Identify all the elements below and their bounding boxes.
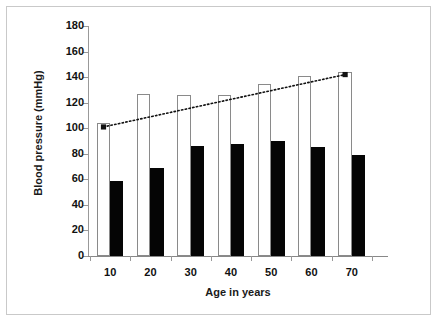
y-tick: 60 (88, 179, 89, 180)
y-tick-label: 180 (44, 19, 84, 31)
y-axis-title: Blood pressure (mmHg) (32, 33, 44, 233)
x-tick-mark (251, 256, 252, 261)
y-tick-label: 0 (44, 249, 84, 261)
x-tick-label: 10 (90, 266, 130, 278)
bar-systolic (177, 95, 190, 256)
bar-diastolic (110, 181, 123, 256)
bar-diastolic (191, 146, 204, 256)
bar-diastolic (271, 141, 284, 256)
x-tick-mark (130, 256, 131, 261)
x-tick-mark (372, 256, 373, 261)
y-tick: 140 (88, 77, 89, 78)
bar-diastolic (352, 155, 365, 256)
y-tick: 120 (88, 103, 89, 104)
y-tick-label: 120 (44, 96, 84, 108)
y-tick: 20 (88, 230, 89, 231)
y-tick-label: 60 (44, 172, 84, 184)
x-axis-line (88, 256, 388, 257)
bar-systolic (298, 76, 311, 256)
plot-area: 020406080100120140160180 10203040506070 (88, 26, 388, 256)
x-axis-title: Age in years (88, 286, 388, 298)
y-tick-label: 40 (44, 198, 84, 210)
y-tick-label: 20 (44, 223, 84, 235)
bar-systolic (97, 123, 110, 256)
bar-diastolic (311, 147, 324, 256)
x-tick-mark (211, 256, 212, 261)
bar-systolic (338, 72, 351, 256)
bar-systolic (137, 94, 150, 256)
y-tick: 100 (88, 128, 89, 129)
y-tick-label: 140 (44, 70, 84, 82)
bar-systolic (218, 95, 231, 256)
y-axis-line (88, 26, 89, 256)
x-tick-label: 20 (130, 266, 170, 278)
y-tick: 180 (88, 26, 89, 27)
x-tick-label: 60 (291, 266, 331, 278)
x-tick-label: 30 (171, 266, 211, 278)
y-tick: 0 (88, 256, 89, 257)
bar-diastolic (150, 168, 163, 256)
x-tick-label: 70 (332, 266, 372, 278)
x-tick-label: 40 (211, 266, 251, 278)
x-tick-mark (291, 256, 292, 261)
y-tick: 160 (88, 52, 89, 53)
y-tick: 80 (88, 154, 89, 155)
x-tick-mark (90, 256, 91, 261)
x-tick-label: 50 (251, 266, 291, 278)
x-tick-mark (171, 256, 172, 261)
x-tick-mark (332, 256, 333, 261)
bar-diastolic (231, 144, 244, 256)
y-tick-label: 100 (44, 121, 84, 133)
y-tick: 40 (88, 205, 89, 206)
chart-figure: Blood pressure (mmHg) 020406080100120140… (0, 0, 438, 322)
bar-systolic (258, 84, 271, 257)
y-tick-label: 80 (44, 147, 84, 159)
y-tick-label: 160 (44, 45, 84, 57)
